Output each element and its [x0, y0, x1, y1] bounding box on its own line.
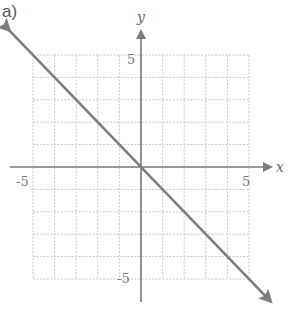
x-axis-label: x — [276, 159, 284, 175]
coordinate-plane-figure: a) x y -5 5 5 -5 — [0, 0, 290, 313]
y-tick-label-min: -5 — [117, 271, 130, 286]
panel-label: a) — [2, 2, 17, 21]
line-y-equals-negative-x — [9, 30, 270, 301]
y-tick-label-max: 5 — [127, 52, 135, 67]
x-tick-label-max: 5 — [242, 174, 250, 189]
x-tick-label-min: -5 — [16, 174, 29, 189]
y-axis-label: y — [136, 9, 146, 25]
